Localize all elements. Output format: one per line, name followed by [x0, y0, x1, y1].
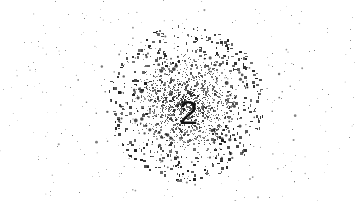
ink-spatter-canvas: [0, 0, 355, 201]
captcha-image: 2: [0, 0, 355, 201]
